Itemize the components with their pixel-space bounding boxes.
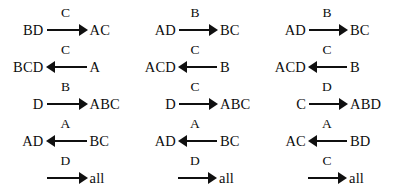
- arrow-line: ADBC: [260, 20, 394, 40]
- arrow-line: BCDA: [0, 57, 132, 77]
- arrow-label: D: [61, 154, 71, 168]
- arrow-line: all: [131, 168, 259, 188]
- source-set-label: AC: [260, 131, 306, 151]
- arrow-head: [308, 135, 317, 147]
- arrow-shaft: [308, 177, 341, 179]
- target-set-label: AC: [90, 20, 132, 40]
- arrow-line: BDAC: [0, 20, 132, 40]
- right-arrow-icon: [309, 20, 347, 40]
- source-set-label: AD: [260, 20, 306, 40]
- arrow-line: ACBD: [260, 131, 394, 151]
- right-arrow-icon: [179, 94, 217, 114]
- arrow-label: A: [322, 117, 332, 131]
- source-set-label: AD: [130, 131, 176, 151]
- left-arrow-icon: [309, 57, 347, 77]
- arrow-label: B: [61, 80, 70, 94]
- arrow-shaft: [314, 140, 347, 142]
- arrow-label: A: [190, 117, 200, 131]
- target-set-label: BD: [350, 131, 394, 151]
- transition-row: CACDB: [130, 43, 260, 80]
- arrow-shaft: [178, 177, 211, 179]
- target-set-label: B: [350, 57, 394, 77]
- arrow-head: [46, 61, 55, 73]
- arrow-shaft: [184, 140, 217, 142]
- right-arrow-icon: [47, 94, 87, 114]
- transition-row: AADBC: [0, 117, 132, 154]
- arrow-line: ADBC: [130, 131, 260, 151]
- transition-row: Dall: [131, 154, 259, 191]
- arrow-head: [46, 135, 55, 147]
- arrow-label: C: [322, 43, 331, 57]
- source-set-label: BD: [0, 20, 44, 40]
- arrow-line: ACDB: [130, 57, 260, 77]
- transition-row: DCABD: [260, 80, 394, 117]
- arrow-line: all: [0, 168, 132, 188]
- arrow-label: A: [61, 117, 71, 131]
- arrow-line: CABD: [260, 94, 394, 114]
- target-set-label: all: [349, 168, 393, 188]
- arrow-shaft: [314, 66, 347, 68]
- target-set-label: A: [90, 57, 132, 77]
- arrow-line: all: [261, 168, 393, 188]
- target-set-label: B: [220, 57, 260, 77]
- arrow-head: [178, 135, 187, 147]
- arrow-label: C: [322, 154, 331, 168]
- arrow-head: [339, 24, 348, 36]
- transition-row: BDABC: [0, 80, 132, 117]
- right-arrow-icon: [308, 168, 346, 188]
- arrow-head: [338, 172, 347, 184]
- arrow-label: B: [322, 6, 331, 20]
- transition-row: CBCDA: [0, 43, 132, 80]
- source-set-label: BCD: [0, 57, 44, 77]
- arrow-line: ACDB: [260, 57, 394, 77]
- left-arrow-icon: [309, 131, 347, 151]
- left-arrow-icon: [179, 57, 217, 77]
- transition-row: BADBC: [130, 6, 260, 43]
- diagram-column: BADBCCACDBCDABCAADBCDall: [131, 6, 259, 191]
- arrow-shaft: [309, 29, 342, 31]
- arrow-label: B: [190, 6, 199, 20]
- arrow-label: D: [322, 80, 332, 94]
- target-set-label: BC: [350, 20, 394, 40]
- arrow-line: DABC: [130, 94, 260, 114]
- source-set-label: C: [260, 94, 306, 114]
- arrow-head: [339, 98, 348, 110]
- left-arrow-icon: [179, 131, 217, 151]
- arrow-head: [79, 98, 88, 110]
- arrow-head: [209, 24, 218, 36]
- arrow-head: [308, 61, 317, 73]
- arrow-label: D: [190, 154, 200, 168]
- arrow-shaft: [47, 29, 82, 31]
- right-arrow-icon: [47, 20, 87, 40]
- arrow-shaft: [179, 29, 212, 31]
- arrow-shaft: [52, 140, 87, 142]
- source-set-label: ACD: [130, 57, 176, 77]
- arrow-head: [79, 24, 88, 36]
- arrow-line: DABC: [0, 94, 132, 114]
- arrow-sequence-diagram: CBDACCBCDABDABCAADBCDallBADBCCACDBCDABCA…: [0, 0, 395, 192]
- arrow-label: C: [190, 80, 199, 94]
- diagram-column: BADBCCACDBDCABDAACBDCall: [259, 6, 395, 191]
- arrow-shaft: [47, 103, 82, 105]
- transition-row: Dall: [0, 154, 132, 191]
- target-set-label: all: [219, 168, 259, 188]
- target-set-label: BC: [220, 131, 260, 151]
- source-set-label: AD: [130, 20, 176, 40]
- left-arrow-icon: [47, 57, 87, 77]
- transition-row: CDABC: [130, 80, 260, 117]
- target-set-label: BC: [220, 20, 260, 40]
- transition-row: CACDB: [260, 43, 394, 80]
- arrow-label: C: [61, 6, 70, 20]
- arrow-head: [209, 98, 218, 110]
- target-set-label: ABC: [220, 94, 260, 114]
- arrow-line: ADBC: [130, 20, 260, 40]
- source-set-label: D: [0, 94, 44, 114]
- right-arrow-icon: [47, 168, 87, 188]
- transition-row: CBDAC: [0, 6, 132, 43]
- arrow-head: [208, 172, 217, 184]
- transition-row: BADBC: [260, 6, 394, 43]
- right-arrow-icon: [178, 168, 216, 188]
- target-set-label: ABC: [90, 94, 132, 114]
- left-arrow-icon: [47, 131, 87, 151]
- arrow-shaft: [184, 66, 217, 68]
